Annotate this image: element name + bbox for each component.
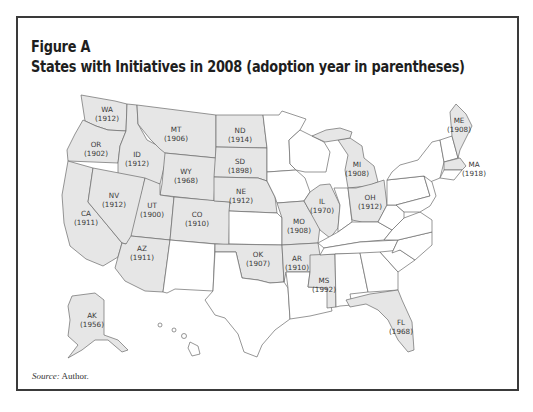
- state-hi-big: [188, 342, 200, 356]
- label-sd: SD(1898): [228, 158, 252, 175]
- label-mt: MT(1906): [164, 126, 188, 143]
- source-note: Source: Author.: [32, 371, 89, 381]
- label-me: ME(1908): [447, 117, 471, 134]
- label-ca: CA(1911): [74, 210, 98, 227]
- source-text: Author.: [60, 371, 89, 381]
- label-mi: MI(1908): [345, 161, 369, 178]
- label-ut: UT(1900): [140, 202, 164, 219]
- state-ct-ri: [440, 170, 462, 180]
- label-ma: MA(1918): [462, 161, 486, 178]
- label-co: CO(1910): [185, 211, 209, 228]
- label-ms: MS(1992): [312, 277, 336, 294]
- label-nv: NV(1912): [102, 192, 126, 209]
- state-hi-3: [182, 334, 187, 339]
- label-or: OR(1902): [84, 141, 108, 158]
- label-fl: FL(1968): [389, 319, 413, 336]
- state-hi-1: [158, 323, 162, 327]
- label-ok: OK(1907): [246, 251, 270, 268]
- label-oh: OH(1912): [358, 194, 382, 211]
- label-il: IL(1970): [310, 198, 334, 215]
- label-wy: WY(1968): [174, 168, 198, 185]
- state-ks: [229, 211, 282, 245]
- state-hi-2: [172, 328, 176, 332]
- label-ak: AK(1956): [80, 312, 104, 329]
- label-id: ID(1912): [125, 151, 149, 168]
- state-ny: [387, 140, 444, 182]
- source-prefix: Source:: [32, 371, 60, 381]
- label-mo: MO(1908): [287, 218, 311, 235]
- label-wa: WA(1912): [95, 106, 119, 123]
- label-ar: AR(1910): [285, 255, 309, 272]
- label-nd: ND(1914): [228, 127, 252, 144]
- us-map: [0, 0, 533, 412]
- label-az: AZ(1911): [130, 245, 154, 262]
- label-ne: NE(1912): [229, 188, 253, 205]
- state-nm: [163, 240, 215, 293]
